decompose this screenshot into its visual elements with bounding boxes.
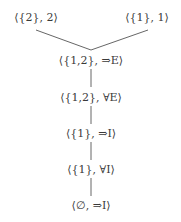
node-premise-2: ⟨{2}, 2⟩ xyxy=(14,12,58,24)
edges-layer xyxy=(0,0,181,222)
node-implication-elim: ⟨{1,2}, ⇒E⟩ xyxy=(59,55,123,67)
node-forall-elim: ⟨{1,2}, ∀E⟩ xyxy=(60,92,122,104)
node-implication-intro-root: ⟨∅, ⇒I⟩ xyxy=(71,200,110,212)
edge-n1-n3 xyxy=(36,30,91,50)
node-forall-intro: ⟨{1}, ∀I⟩ xyxy=(67,164,115,176)
node-implication-intro-1: ⟨{1}, ⇒I⟩ xyxy=(66,128,116,140)
node-premise-1: ⟨{1}, 1⟩ xyxy=(125,12,169,24)
edge-n2-n3 xyxy=(91,30,148,50)
